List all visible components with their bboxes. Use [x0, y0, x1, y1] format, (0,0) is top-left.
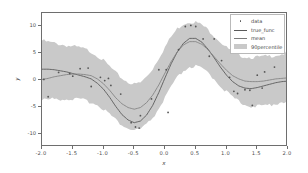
x-tick-label: 0.5 — [190, 150, 199, 156]
scatter-point — [178, 49, 180, 51]
x-tick — [256, 146, 257, 149]
x-tick — [133, 146, 134, 149]
x-tick-label: 1.5 — [252, 150, 261, 156]
x-axis-label: x — [162, 160, 165, 166]
scatter-point — [233, 90, 235, 92]
y-tick-label: 10 — [29, 22, 36, 28]
scatter-point — [130, 122, 132, 124]
scatter-point — [249, 89, 251, 91]
y-axis-label: y — [14, 77, 20, 80]
scatter-point — [90, 86, 92, 88]
y-tick-label: 5 — [33, 49, 36, 55]
scatter-point — [229, 76, 231, 78]
x-tick-label: -1.0 — [97, 150, 108, 156]
x-tick-label: 0.0 — [160, 150, 169, 156]
scatter-point — [251, 105, 253, 107]
x-tick — [287, 146, 288, 149]
y-tick — [38, 106, 41, 107]
y-tick — [38, 133, 41, 134]
scatter-point — [135, 126, 137, 128]
scatter-point — [108, 77, 110, 79]
scatter-point — [69, 73, 71, 75]
x-tick — [72, 146, 73, 149]
scatter-point — [100, 76, 102, 78]
x-tick-label: 2.0 — [283, 150, 292, 156]
x-tick — [226, 146, 227, 149]
x-tick — [164, 146, 165, 149]
legend-label: data — [251, 17, 262, 26]
scatter-point — [184, 26, 186, 28]
scatter-point — [47, 96, 49, 98]
legend-line-icon — [233, 26, 248, 34]
x-tick — [103, 146, 104, 149]
legend-marker-icon — [233, 17, 248, 25]
y-tick-label: -5 — [31, 103, 36, 109]
legend-line-icon — [233, 34, 248, 42]
scatter-point — [244, 89, 246, 91]
y-tick — [38, 52, 41, 53]
legend-label: true_func — [251, 26, 275, 35]
scatter-point — [167, 112, 169, 114]
x-tick-label: -1.5 — [66, 150, 77, 156]
x-tick-label: 1.0 — [221, 150, 230, 156]
scatter-point — [208, 55, 210, 57]
legend-label: mean — [251, 34, 265, 43]
scatter-point — [202, 38, 204, 40]
scatter-point — [110, 85, 112, 87]
scatter-point — [138, 127, 140, 129]
y-tick — [38, 79, 41, 80]
legend-item-mean: mean — [233, 34, 281, 43]
y-tick-label: -10 — [28, 130, 36, 136]
scatter-point — [58, 72, 60, 74]
scatter-point — [190, 25, 192, 27]
scatter-point — [261, 87, 263, 89]
y-tick-label: 0 — [33, 76, 36, 82]
scatter-point — [87, 67, 89, 69]
scatter-point — [151, 98, 153, 100]
scatter-point — [120, 93, 122, 95]
scatter-point — [72, 75, 74, 77]
scatter-point — [195, 26, 197, 28]
scatter-point — [158, 69, 160, 71]
figure: -2.0-1.5-1.0-0.50.00.51.01.52.01050-5-10… — [0, 0, 308, 173]
scatter-point — [256, 74, 258, 76]
legend-label: 90percentile — [251, 43, 282, 52]
y-tick — [38, 25, 41, 26]
legend-item-90percentile: 90percentile — [233, 43, 281, 52]
scatter-point — [104, 80, 106, 82]
scatter-point — [165, 69, 167, 71]
scatter-point — [140, 115, 142, 117]
scatter-point — [79, 68, 81, 70]
chart-legend: data true_func mean 90percentile — [230, 14, 285, 54]
legend-item-data: data — [233, 17, 281, 26]
scatter-point — [213, 38, 215, 40]
x-tick-label: -2.0 — [36, 150, 47, 156]
scatter-point — [221, 60, 223, 62]
legend-item-true-func: true_func — [233, 26, 281, 35]
scatter-point — [237, 93, 239, 95]
scatter-point — [43, 79, 45, 81]
scatter-point — [274, 66, 276, 68]
legend-band-icon — [233, 43, 248, 51]
x-tick — [41, 146, 42, 149]
scatter-point — [264, 71, 266, 73]
x-tick — [195, 146, 196, 149]
x-tick-label: -0.5 — [128, 150, 139, 156]
